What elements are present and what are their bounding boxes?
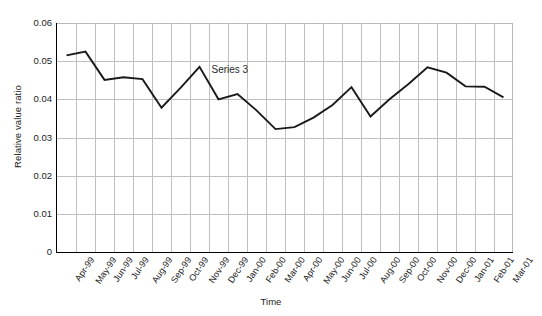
y-axis-tick-label: 0 (24, 247, 52, 257)
y-axis-tick-label: 0.03 (24, 133, 52, 143)
y-axis-tick-label: 0.04 (24, 95, 52, 105)
series-line-series-3 (57, 23, 513, 252)
y-axis-tick-label: 0.05 (24, 56, 52, 66)
x-axis-title: Time (0, 296, 542, 307)
y-axis-tick-label: 0.01 (24, 209, 52, 219)
x-axis-tick-label: May-99 (94, 256, 118, 286)
x-axis-tick-label: May-00 (322, 256, 346, 286)
y-axis-tick-label: 0.02 (24, 171, 52, 181)
x-axis-tick-labels: Apr-99May-99Jun-99Jul-99Aug-99Sep-99Oct-… (56, 254, 512, 300)
y-axis-tick-labels: 00.010.020.030.040.050.06 (24, 0, 52, 316)
y-axis-tick-label: 0.06 (24, 18, 52, 28)
chart-figure: Relative value ratio 00.010.020.030.040.… (0, 0, 542, 316)
y-axis-title-text: Relative value ratio (12, 85, 23, 168)
plot-area: Series 3 (56, 23, 513, 253)
series-annotation-label: Series 3 (212, 64, 249, 75)
